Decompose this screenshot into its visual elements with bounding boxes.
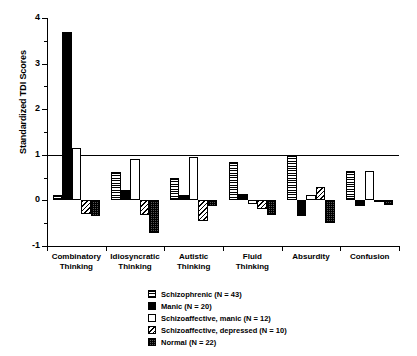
legend-swatch-icon	[148, 326, 156, 334]
bar	[267, 200, 277, 215]
y-tick-label-0: 0	[20, 199, 40, 200]
bar	[208, 200, 218, 205]
bar	[72, 148, 82, 200]
chart-figure: Standardized TDI Scores -101234 Combinat…	[0, 0, 417, 356]
bar	[179, 195, 189, 200]
x-tick	[164, 246, 165, 251]
legend-swatch-icon	[148, 338, 156, 346]
y-tick-label-3: 3	[20, 63, 40, 64]
y-tick-0	[42, 200, 47, 201]
plot-area: -101234	[47, 18, 399, 246]
legend-item-label: Schizoaffective, depressed (N = 10)	[161, 326, 287, 335]
bar	[53, 195, 63, 200]
x-tick	[399, 246, 400, 251]
bar	[111, 172, 121, 200]
bar	[198, 200, 208, 221]
bar	[346, 171, 356, 201]
bar	[355, 200, 365, 205]
legend-swatch-icon	[148, 314, 156, 322]
x-tick	[340, 246, 341, 251]
bar	[316, 187, 326, 201]
bar	[121, 190, 131, 200]
zero-baseline	[47, 155, 399, 156]
y-tick-4	[42, 18, 47, 19]
x-tick	[106, 246, 107, 251]
bar	[384, 200, 394, 205]
x-category-label: Confusion	[334, 252, 406, 262]
bar	[62, 32, 72, 201]
legend-item-label: Schizophrenic (N = 43)	[161, 290, 242, 299]
y-tick-label-4: 4	[20, 17, 40, 18]
y-tick-label--1: -1	[20, 245, 40, 246]
bar	[374, 200, 384, 202]
legend-item[interactable]: Manic (N = 20)	[148, 300, 287, 312]
bar	[140, 200, 150, 215]
y-axis-line	[47, 18, 48, 246]
y-tick-minor	[44, 86, 47, 87]
legend-item-label: Schizoaffective, manic (N = 12)	[161, 314, 271, 323]
y-axis-title: Standardized TDI Scores	[18, 32, 28, 172]
y-tick-minor	[44, 223, 47, 224]
y-tick-1	[42, 155, 47, 156]
y-tick-2	[42, 109, 47, 110]
y-tick-minor	[44, 132, 47, 133]
legend-item-label: Normal (N = 22)	[161, 338, 216, 347]
bar	[248, 200, 258, 203]
x-tick	[282, 246, 283, 251]
x-category-label-line: Thinking	[216, 262, 288, 272]
bar	[238, 194, 248, 201]
bar	[229, 162, 239, 201]
y-tick-minor	[44, 178, 47, 179]
bar	[81, 200, 91, 214]
legend-item-label: Manic (N = 20)	[161, 302, 212, 311]
x-tick	[223, 246, 224, 251]
bar	[257, 200, 267, 208]
bar	[189, 157, 199, 200]
y-tick-label-1: 1	[20, 154, 40, 155]
bar	[170, 178, 180, 201]
bar	[149, 200, 159, 233]
legend-item[interactable]: Schizoaffective, manic (N = 12)	[148, 312, 287, 324]
bar	[297, 200, 307, 216]
y-tick-minor	[44, 41, 47, 42]
bar	[306, 195, 316, 200]
bar	[130, 159, 140, 200]
bar	[91, 200, 101, 216]
y-tick-3	[42, 64, 47, 65]
legend-item[interactable]: Schizoaffective, depressed (N = 10)	[148, 324, 287, 336]
legend-item[interactable]: Schizophrenic (N = 43)	[148, 288, 287, 300]
legend-swatch-icon	[148, 302, 156, 310]
y-tick-label-2: 2	[20, 108, 40, 109]
x-tick	[47, 246, 48, 251]
legend-item[interactable]: Normal (N = 22)	[148, 336, 287, 348]
bar	[287, 155, 297, 201]
legend-swatch-icon	[148, 290, 156, 298]
bar	[325, 200, 335, 223]
x-category-label-line: Confusion	[334, 252, 406, 262]
bar	[365, 171, 375, 201]
chart-legend: Schizophrenic (N = 43)Manic (N = 20)Schi…	[148, 288, 287, 348]
